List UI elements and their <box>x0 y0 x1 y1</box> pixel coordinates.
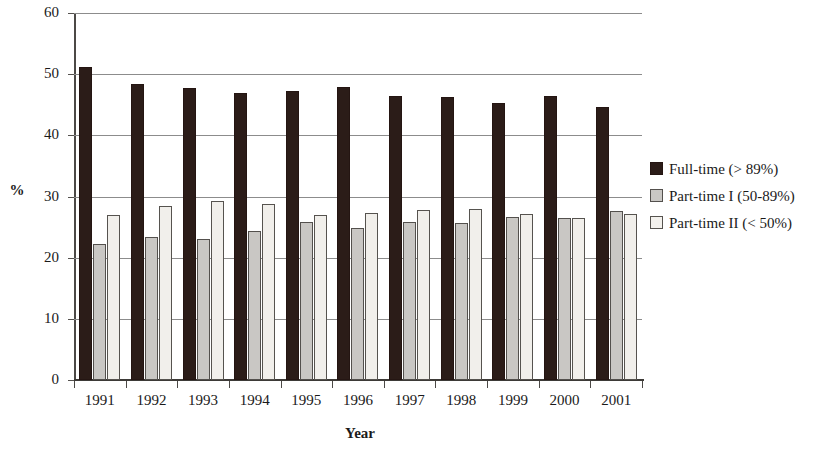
x-tick-mark <box>539 381 540 388</box>
y-tick-label: 20 <box>19 250 59 265</box>
legend-swatch-icon <box>650 162 663 175</box>
chart-legend: Full-time (> 89%)Part-time I (50-89%)Par… <box>650 155 832 236</box>
bar <box>79 67 92 380</box>
bar-group <box>74 13 126 380</box>
x-tick-mark <box>281 381 282 388</box>
bar <box>506 217 519 380</box>
x-tick-mark <box>126 381 127 388</box>
bar <box>492 103 505 380</box>
bar <box>234 93 247 380</box>
bar <box>469 209 482 380</box>
bar-group <box>126 13 178 380</box>
bar <box>93 244 106 380</box>
x-tick-mark <box>74 381 75 388</box>
bar-group <box>384 13 436 380</box>
bar <box>211 201 224 380</box>
bar <box>417 210 430 380</box>
y-tick-label: 60 <box>19 5 59 20</box>
bar <box>262 204 275 380</box>
bar-group <box>281 13 333 380</box>
bar <box>624 214 637 380</box>
legend-label: Part-time I (50-89%) <box>669 188 795 204</box>
bar <box>131 84 144 380</box>
bar <box>159 206 172 380</box>
bar <box>145 237 158 380</box>
bar-chart: % 0102030405060 199119921993199419951996… <box>0 0 832 452</box>
bar <box>572 218 585 380</box>
bar <box>107 215 120 380</box>
bar <box>610 211 623 380</box>
legend-item: Full-time (> 89%) <box>650 155 832 182</box>
bar <box>248 231 261 380</box>
bar <box>197 239 210 380</box>
bar <box>520 214 533 380</box>
legend-item: Part-time I (50-89%) <box>650 182 832 209</box>
bar <box>183 88 196 380</box>
bar <box>544 96 557 380</box>
legend-label: Part-time II (< 50%) <box>669 215 792 231</box>
x-tick-mark <box>177 381 178 388</box>
bar <box>441 97 454 380</box>
y-tick-label: 0 <box>19 372 59 387</box>
x-tick-mark <box>487 381 488 388</box>
bar <box>300 222 313 380</box>
x-tick-mark <box>642 381 643 388</box>
x-tick-mark <box>229 381 230 388</box>
legend-item: Part-time II (< 50%) <box>650 209 832 236</box>
bar <box>403 222 416 380</box>
x-tick-mark <box>590 381 591 388</box>
y-tick-label: 40 <box>19 127 59 142</box>
bar-group <box>590 13 642 380</box>
bar-group <box>229 13 281 380</box>
bar <box>351 228 364 380</box>
x-tick-mark <box>384 381 385 388</box>
bar <box>389 96 402 380</box>
bar <box>337 87 350 380</box>
legend-swatch-icon <box>650 189 663 202</box>
bar-group <box>487 13 539 380</box>
x-tick-mark <box>435 381 436 388</box>
bar-group <box>435 13 487 380</box>
bar-group <box>177 13 229 380</box>
x-tick-mark <box>332 381 333 388</box>
bar-group <box>539 13 591 380</box>
y-tick-label: 30 <box>19 189 59 204</box>
plot-area <box>74 13 642 380</box>
bar <box>286 91 299 380</box>
bar <box>558 218 571 380</box>
bar <box>365 213 378 380</box>
legend-label: Full-time (> 89%) <box>669 161 778 177</box>
bar <box>455 223 468 380</box>
x-tick-label: 2001 <box>586 392 646 409</box>
bar-group <box>332 13 384 380</box>
bar <box>596 107 609 380</box>
y-tick-label: 50 <box>19 66 59 81</box>
y-tick-label: 10 <box>19 311 59 326</box>
legend-swatch-icon <box>650 216 663 229</box>
bar <box>314 215 327 380</box>
x-axis-title: Year <box>280 425 440 442</box>
